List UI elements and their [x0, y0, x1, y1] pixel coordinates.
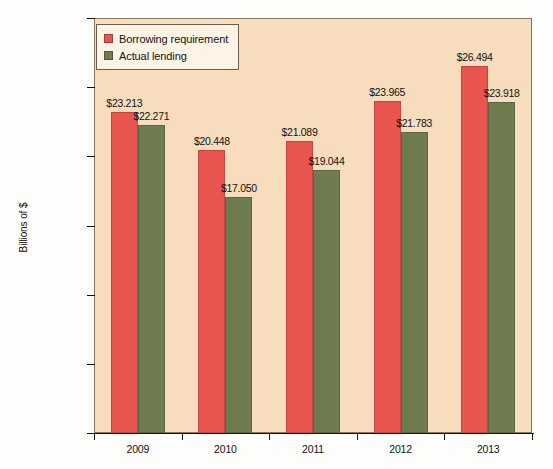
bar-2009-borrowing-requirement	[111, 112, 138, 433]
bar-value-label: $21.783	[374, 117, 454, 129]
y-axis-title: Billions of $	[18, 168, 29, 288]
y-axis-tick-mark	[87, 156, 95, 157]
bar-value-label: $23.213	[84, 97, 164, 109]
legend-item-borrowing-requirement: Borrowing requirement	[104, 30, 228, 47]
y-axis-tick-mark	[87, 295, 95, 296]
bar-2012-actual-lending	[401, 132, 428, 433]
x-axis-tick-label: 2009	[93, 443, 183, 455]
y-axis-tick-mark	[87, 18, 95, 19]
legend-swatch-icon-actual-lending	[104, 51, 113, 60]
x-axis-tick-mark	[182, 433, 183, 440]
x-axis-tick-mark	[269, 433, 270, 440]
x-axis-tick-label: 2011	[268, 443, 358, 455]
bar-2013-actual-lending	[488, 102, 515, 433]
bar-value-label: $26.494	[435, 51, 515, 63]
legend-swatch-icon-borrowing-requirement	[104, 34, 113, 43]
bar-value-label: $19.044	[287, 155, 367, 167]
bar-value-label: $22.271	[111, 110, 191, 122]
bar-value-label: $20.448	[172, 135, 252, 147]
x-axis-line	[88, 433, 534, 434]
y-axis-tick-mark	[87, 226, 95, 227]
bar-chart: Billions of $ $0$5.000$10.000$15.000$20.…	[0, 0, 553, 469]
x-axis-tick-label: 2012	[356, 443, 446, 455]
bar-2009-actual-lending	[138, 125, 165, 433]
legend-label-actual-lending: Actual lending	[119, 50, 187, 62]
x-axis-tick-mark	[532, 433, 533, 440]
bar-value-label: $21.089	[260, 126, 340, 138]
x-axis-tick-mark	[94, 433, 95, 440]
bar-value-label: $23.918	[462, 87, 542, 99]
y-axis-tick-mark	[87, 87, 95, 88]
x-axis-tick-label: 2010	[180, 443, 270, 455]
bar-2011-actual-lending	[313, 170, 340, 433]
bar-value-label: $17.050	[199, 182, 279, 194]
legend-item-actual-lending: Actual lending	[104, 47, 228, 64]
bar-2013-borrowing-requirement	[461, 66, 488, 433]
bar-2012-borrowing-requirement	[374, 101, 401, 433]
y-axis-tick-mark	[87, 364, 95, 365]
legend-label-borrowing-requirement: Borrowing requirement	[119, 33, 228, 45]
x-axis-tick-mark	[444, 433, 445, 440]
chart-legend: Borrowing requirement Actual lending	[96, 24, 239, 70]
bar-2011-borrowing-requirement	[286, 141, 313, 433]
bar-2010-actual-lending	[225, 197, 252, 433]
x-axis-tick-mark	[357, 433, 358, 440]
x-axis-tick-label: 2013	[443, 443, 533, 455]
bar-value-label: $23.965	[347, 86, 427, 98]
